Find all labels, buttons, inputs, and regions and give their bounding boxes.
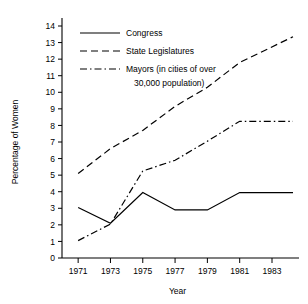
x-axis-tick-label: 1971 [69,266,88,276]
chart-canvas: 0123456789101112131419711973197519771979… [0,0,308,304]
x-axis-tick-label: 1983 [263,266,282,276]
y-axis-tick-label: 5 [50,170,55,180]
x-axis-tick-label: 1981 [230,266,249,276]
x-axis-tick-label: 1979 [198,266,217,276]
legend-label-3: 30,000 population) [134,78,205,88]
x-axis-tick-label: 1977 [166,266,185,276]
y-axis-tick-label: 4 [50,187,55,197]
y-axis-tick-label: 0 [50,253,55,263]
y-axis-tick-label: 13 [46,38,56,48]
y-axis-tick-label: 8 [50,121,55,131]
line-chart: 0123456789101112131419711973197519771979… [0,0,308,304]
y-axis-tick-label: 14 [46,21,56,31]
legend-label-1: State Legislatures [126,46,194,56]
y-axis-tick-label: 1 [50,237,55,247]
y-axis-title: Percentage of Women [10,100,20,185]
x-axis-tick-label: 1973 [101,266,120,276]
x-axis-title: Year [169,286,186,296]
y-axis-tick-label: 3 [50,203,55,213]
y-axis-tick-label: 11 [46,71,55,81]
series-line-1 [78,37,293,174]
legend-label-2: Mayors (in cities of over [126,64,216,74]
x-axis-tick-label: 1975 [133,266,152,276]
y-axis-tick-label: 6 [50,154,55,164]
y-axis-tick-label: 7 [50,137,55,147]
y-axis-tick-label: 10 [46,87,56,97]
series-line-0 [78,193,293,224]
y-axis-tick-label: 2 [50,220,55,230]
y-axis-tick-label: 9 [50,104,55,114]
y-axis-tick-label: 12 [46,54,56,64]
legend-label-0: Congress [126,28,162,38]
